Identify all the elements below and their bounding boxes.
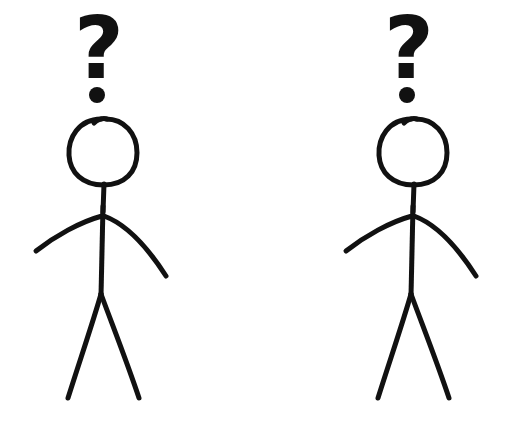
- drawing-canvas: ? ?: [0, 0, 512, 424]
- torso: [101, 206, 103, 296]
- question-mark-dot-icon: [399, 87, 415, 103]
- question-mark-dot-icon: [89, 87, 105, 103]
- question-mark-icon: ?: [384, 0, 434, 98]
- torso: [411, 206, 413, 296]
- question-mark-icon: ?: [74, 0, 124, 98]
- stick-figures-illustration: ? ?: [0, 0, 512, 424]
